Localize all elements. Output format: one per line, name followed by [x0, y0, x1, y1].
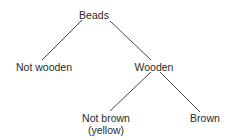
node-label: Brown — [190, 112, 220, 124]
node-label: Not brown — [82, 112, 130, 124]
node-label: Not wooden — [16, 61, 72, 73]
node-sublabel: (yellow) — [82, 124, 130, 136]
node-label: Beads — [79, 9, 109, 21]
node-not-wooden: Not wooden — [16, 61, 72, 73]
node-label: Wooden — [135, 61, 174, 73]
node-not-brown: Not brown (yellow) — [82, 112, 130, 136]
node-brown: Brown — [190, 112, 220, 124]
tree-diagram: Beads Not wooden Wooden Not brown (yello… — [0, 0, 240, 140]
edge-beads-not-wooden — [42, 20, 82, 60]
edge-wooden-not-brown — [110, 72, 151, 111]
edge-wooden-brown — [160, 72, 200, 112]
node-beads: Beads — [79, 9, 109, 21]
edge-beads-wooden — [110, 21, 151, 60]
node-wooden: Wooden — [135, 61, 174, 73]
